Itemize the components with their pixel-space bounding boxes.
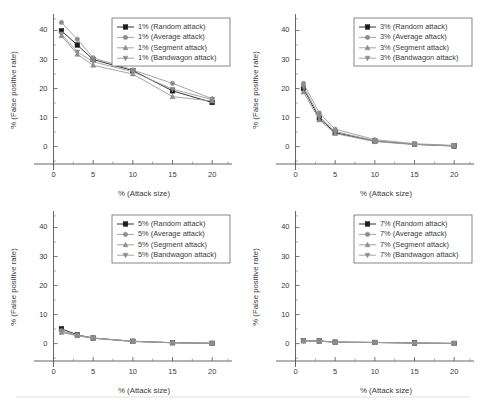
y-tick-label: 20 bbox=[39, 281, 47, 290]
chart-panel-3pct: 05101520010203040% (Attack size)% (False… bbox=[242, 0, 484, 200]
data-point-up-triangle bbox=[170, 94, 175, 99]
legend-label-average: 7% (Average attack) bbox=[380, 229, 447, 238]
legend-label-segment: 3% (Segment attack) bbox=[380, 43, 449, 52]
legend-label-segment: 1% (Segment attack) bbox=[138, 43, 207, 52]
x-tick-label: 15 bbox=[410, 170, 418, 179]
x-tick-label: 5 bbox=[91, 367, 95, 376]
chart-svg-panel-3pct: 05101520010203040% (Attack size)% (False… bbox=[242, 0, 484, 200]
x-tick-label: 20 bbox=[208, 170, 216, 179]
y-tick-label: 0 bbox=[43, 142, 47, 151]
x-tick-label: 10 bbox=[371, 367, 379, 376]
data-point-filled-square bbox=[123, 25, 128, 30]
legend-label-average: 1% (Average attack) bbox=[138, 32, 205, 41]
chart-svg-panel-1pct: 05101520010203040% (Attack size)% (False… bbox=[0, 0, 242, 200]
series-random bbox=[301, 86, 456, 148]
legend-label-bandwagon: 7% (Bandwagon attack) bbox=[380, 250, 458, 259]
x-tick-label: 15 bbox=[410, 367, 418, 376]
legend: 5% (Random attack)5% (Average attack)5% … bbox=[112, 215, 230, 263]
data-point-filled-square bbox=[365, 222, 370, 227]
data-point-filled-circle bbox=[123, 35, 127, 39]
y-tick-label: 40 bbox=[39, 25, 47, 34]
page-edge-artifact bbox=[0, 392, 484, 401]
y-tick-label: 10 bbox=[281, 310, 289, 319]
x-tick-label: 10 bbox=[129, 367, 137, 376]
y-tick-label: 10 bbox=[39, 113, 47, 122]
y-tick-label: 30 bbox=[281, 55, 289, 64]
legend-label-average: 5% (Average attack) bbox=[138, 229, 205, 238]
legend-label-bandwagon: 1% (Bandwagon attack) bbox=[138, 53, 216, 62]
legend-label-bandwagon: 3% (Bandwagon attack) bbox=[380, 53, 458, 62]
series-line bbox=[303, 87, 454, 146]
data-point-filled-circle bbox=[365, 35, 369, 39]
legend-label-segment: 7% (Segment attack) bbox=[380, 240, 449, 249]
chart-panel-5pct: 05101520010203040% (Attack size)% (False… bbox=[0, 197, 242, 397]
data-point-filled-square bbox=[365, 25, 370, 30]
x-tick-label: 10 bbox=[371, 170, 379, 179]
x-tick-label: 15 bbox=[168, 367, 176, 376]
series-line bbox=[303, 83, 454, 145]
legend-label-average: 3% (Average attack) bbox=[380, 32, 447, 41]
legend-label-random: 3% (Random attack) bbox=[380, 22, 447, 31]
y-axis-title: % (False positive rate) bbox=[251, 51, 260, 129]
series-group bbox=[301, 338, 457, 346]
y-tick-label: 20 bbox=[281, 84, 289, 93]
chart-svg-panel-5pct: 05101520010203040% (Attack size)% (False… bbox=[0, 197, 242, 397]
legend: 1% (Random attack)1% (Average attack)1% … bbox=[112, 18, 230, 66]
y-axis-title: % (False positive rate) bbox=[9, 248, 18, 326]
legend-label-random: 7% (Random attack) bbox=[380, 219, 447, 228]
data-point-filled-circle bbox=[91, 56, 95, 60]
x-tick-label: 0 bbox=[293, 367, 297, 376]
x-tick-label: 20 bbox=[208, 367, 216, 376]
y-tick-label: 0 bbox=[43, 339, 47, 348]
legend: 3% (Random attack)3% (Average attack)3% … bbox=[354, 18, 472, 66]
legend-label-segment: 5% (Segment attack) bbox=[138, 240, 207, 249]
x-tick-label: 15 bbox=[168, 170, 176, 179]
chart-svg-panel-7pct: 05101520010203040% (Attack size)% (False… bbox=[242, 197, 484, 397]
series-bandwagon bbox=[301, 85, 457, 149]
legend-label-bandwagon: 5% (Bandwagon attack) bbox=[138, 250, 216, 259]
figure-canvas: 05101520010203040% (Attack size)% (False… bbox=[0, 0, 484, 401]
y-tick-label: 0 bbox=[285, 339, 289, 348]
y-axis-title: % (False positive rate) bbox=[9, 51, 18, 129]
data-point-filled-circle bbox=[365, 232, 369, 236]
y-axis-title: % (False positive rate) bbox=[251, 248, 260, 326]
data-point-filled-circle bbox=[170, 81, 174, 85]
series-group bbox=[301, 81, 457, 148]
y-tick-label: 10 bbox=[39, 310, 47, 319]
y-tick-label: 10 bbox=[281, 113, 289, 122]
y-tick-label: 30 bbox=[39, 252, 47, 261]
y-tick-label: 30 bbox=[281, 252, 289, 261]
x-tick-label: 0 bbox=[51, 170, 55, 179]
x-tick-label: 10 bbox=[129, 170, 137, 179]
x-tick-label: 5 bbox=[333, 170, 337, 179]
legend-label-random: 5% (Random attack) bbox=[138, 219, 205, 228]
series-bandwagon bbox=[301, 339, 457, 346]
series-group bbox=[59, 326, 215, 345]
y-tick-label: 40 bbox=[281, 222, 289, 231]
data-point-filled-square bbox=[123, 222, 128, 227]
chart-panel-7pct: 05101520010203040% (Attack size)% (False… bbox=[242, 197, 484, 397]
y-tick-label: 40 bbox=[281, 25, 289, 34]
y-tick-label: 30 bbox=[39, 55, 47, 64]
legend: 7% (Random attack)7% (Average attack)7% … bbox=[354, 215, 472, 263]
data-point-filled-circle bbox=[123, 232, 127, 236]
series-line bbox=[61, 332, 212, 344]
series-segment bbox=[301, 89, 457, 148]
x-tick-label: 0 bbox=[51, 367, 55, 376]
y-tick-label: 20 bbox=[39, 84, 47, 93]
series-average bbox=[301, 81, 456, 148]
series-bandwagon bbox=[59, 330, 215, 346]
y-tick-label: 20 bbox=[281, 281, 289, 290]
chart-panel-1pct: 05101520010203040% (Attack size)% (False… bbox=[0, 0, 242, 200]
series-average bbox=[301, 338, 456, 345]
x-tick-label: 5 bbox=[333, 367, 337, 376]
x-tick-label: 0 bbox=[293, 170, 297, 179]
y-tick-label: 0 bbox=[285, 142, 289, 151]
y-tick-label: 40 bbox=[39, 222, 47, 231]
x-tick-label: 5 bbox=[91, 170, 95, 179]
series-segment bbox=[301, 338, 457, 345]
x-tick-label: 20 bbox=[450, 367, 458, 376]
data-point-filled-square bbox=[75, 43, 80, 48]
x-tick-label: 20 bbox=[450, 170, 458, 179]
series-line bbox=[303, 92, 454, 146]
